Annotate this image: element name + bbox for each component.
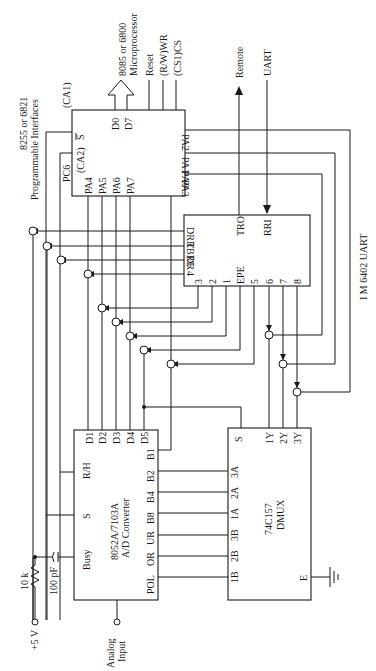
svg-text:EPE: EPE	[235, 266, 246, 284]
mp-label-1: 8085 or 6800	[117, 23, 128, 76]
data-bus-arrow	[108, 80, 134, 110]
svg-text:2: 2	[207, 279, 218, 284]
svg-text:DR: DR	[185, 256, 196, 270]
svg-text:3A: 3A	[229, 465, 240, 478]
svg-text:(CS1)CS: (CS1)CS	[172, 40, 184, 76]
svg-text:(R/W)WR: (R/W)WR	[158, 34, 170, 76]
svg-text:Reset: Reset	[144, 54, 155, 76]
svg-text:PA3: PA3	[180, 180, 191, 197]
svg-text:2Y: 2Y	[278, 432, 289, 444]
svg-text:OR: OR	[145, 552, 156, 566]
svg-text:5: 5	[249, 279, 260, 284]
svg-text:PA6: PA6	[111, 177, 122, 194]
svg-text:DMUX: DMUX	[275, 499, 286, 530]
svg-text:I M 6402 UART: I M 6402 UART	[358, 234, 369, 300]
svg-text:6: 6	[264, 279, 275, 284]
svg-text:8052A/7103A: 8052A/7103A	[109, 502, 120, 560]
svg-text:PA5: PA5	[97, 177, 108, 194]
svg-text:1B: 1B	[229, 571, 240, 583]
svg-text:3: 3	[193, 279, 204, 284]
svg-text:1Y: 1Y	[264, 432, 275, 444]
svg-text:D2: D2	[97, 432, 108, 444]
svg-text:B1: B1	[145, 448, 156, 460]
resistor-icon	[31, 557, 39, 620]
svg-text:Analog: Analog	[105, 639, 116, 668]
pc6-wire	[60, 153, 72, 620]
svg-text:B2: B2	[145, 470, 156, 482]
svg-text:B4: B4	[145, 491, 156, 503]
svg-text:100 pF: 100 pF	[48, 567, 59, 596]
svg-text:+5 V: +5 V	[29, 629, 40, 650]
svg-text:B8: B8	[145, 512, 156, 524]
svg-text:1: 1	[221, 279, 232, 284]
svg-text:(CA1): (CA1)	[61, 82, 73, 108]
svg-text:R/H: R/H	[81, 462, 92, 479]
svg-text:Remote: Remote	[234, 46, 245, 78]
analog-input-terminal	[114, 619, 120, 625]
svg-text:PA2: PA2	[180, 134, 191, 151]
svg-text:PA4: PA4	[83, 177, 94, 194]
supply-terminal	[32, 619, 38, 625]
pia-s-wire	[46, 132, 72, 620]
svg-text:74C157: 74C157	[263, 503, 274, 535]
rri-arrow-icon	[263, 205, 271, 214]
svg-text:4: 4	[185, 271, 196, 276]
svg-text:Input: Input	[116, 641, 127, 662]
svg-text:S: S	[233, 436, 244, 442]
svg-text:D1: D1	[84, 432, 95, 444]
svg-text:PC6: PC6	[61, 165, 72, 182]
svg-text:D3: D3	[111, 432, 122, 444]
svg-text:RRI: RRI	[262, 219, 273, 236]
svg-text:UR: UR	[145, 531, 156, 545]
svg-text:8255 or 6821: 8255 or 6821	[18, 97, 29, 150]
svg-text:A/D Converter: A/D Converter	[120, 498, 131, 558]
svg-text:D4: D4	[125, 432, 136, 444]
uart-block	[184, 215, 310, 286]
svg-text:Busy: Busy	[81, 549, 92, 570]
svg-text:PA7: PA7	[125, 177, 136, 194]
svg-text:8: 8	[292, 279, 303, 284]
svg-text:Programmable Interfaces: Programmable Interfaces	[29, 99, 40, 200]
svg-text:UART: UART	[262, 49, 273, 76]
svg-text:S: S	[75, 134, 86, 140]
svg-text:D7: D7	[123, 118, 134, 130]
svg-text:7: 7	[278, 279, 289, 284]
p5-wire	[176, 286, 254, 364]
svg-text:2B: 2B	[229, 550, 240, 562]
p3-wire	[107, 286, 198, 308]
svg-text:D0: D0	[110, 118, 121, 130]
remote-arrow-icon	[235, 86, 243, 95]
mp-label-2: Microprocessor	[128, 13, 139, 76]
svg-text:1A: 1A	[229, 507, 240, 520]
schematic-canvas: 8085 or 6800 Microprocessor Reset (R/W)W…	[0, 0, 376, 671]
dmux-s-wire	[144, 407, 241, 428]
svg-text:3B: 3B	[229, 529, 240, 541]
svg-text:10 k: 10 k	[19, 573, 30, 591]
svg-text:D5: D5	[139, 432, 150, 444]
svg-text:E: E	[298, 575, 309, 581]
svg-text:S: S	[81, 513, 92, 519]
svg-text:3Y: 3Y	[292, 432, 303, 444]
svg-text:TRO: TRO	[235, 216, 246, 236]
svg-text:(CA2): (CA2)	[75, 147, 87, 173]
drr-junction	[29, 227, 37, 235]
svg-text:2A: 2A	[229, 486, 240, 499]
svg-text:POL: POL	[145, 575, 156, 594]
